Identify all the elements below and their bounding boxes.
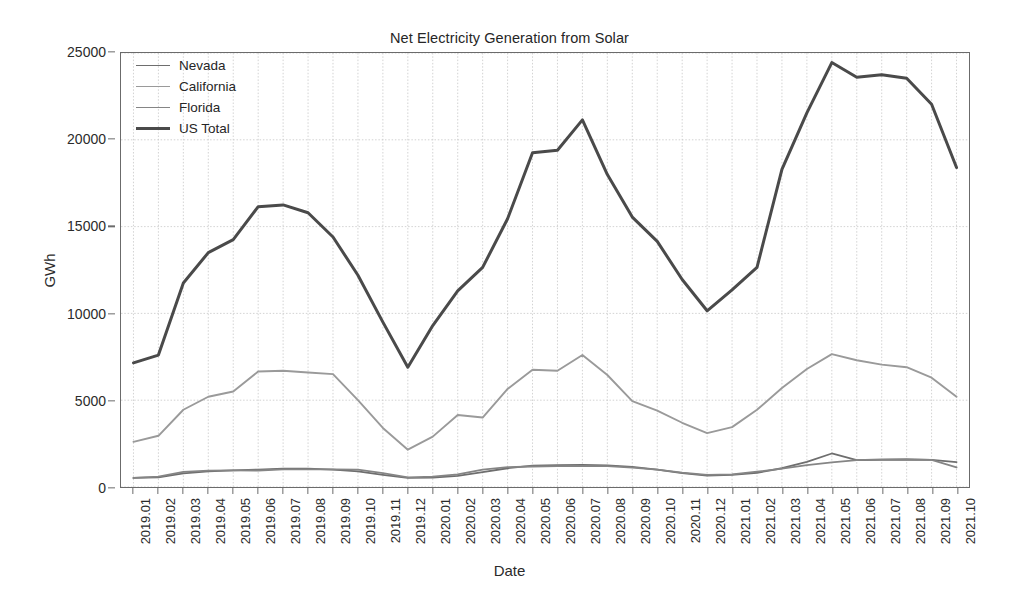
y-tick-label: 0 (98, 480, 106, 496)
x-tick-mark (682, 488, 683, 494)
legend-label: Florida (179, 100, 220, 115)
legend-entry-florida[interactable]: Florida (136, 98, 236, 117)
x-tick-mark (707, 488, 708, 494)
y-axis: 0500010000150002000025000 (0, 52, 120, 488)
x-tick-mark (507, 488, 508, 494)
x-tick-mark (732, 488, 733, 494)
legend-line-swatch-icon (136, 127, 170, 130)
x-tick-label: 2021.09 (938, 498, 953, 544)
x-tick-label: 2021.02 (763, 498, 778, 544)
x-tick-label: 2020.04 (513, 498, 528, 544)
plot-area (120, 52, 970, 488)
legend-line-swatch-icon (136, 65, 170, 66)
x-tick-label: 2021.05 (838, 498, 853, 544)
x-tick-mark (532, 488, 533, 494)
x-axis-label: Date (0, 562, 1019, 579)
x-tick-mark (432, 488, 433, 494)
x-tick-mark (482, 488, 483, 494)
x-tick-label: 2019.02 (163, 498, 178, 544)
x-tick-label: 2020.01 (438, 498, 453, 544)
legend-line-swatch-icon (136, 86, 170, 87)
x-tick-mark (757, 488, 758, 494)
x-tick-label: 2019.12 (413, 498, 428, 544)
y-tick-label: 25000 (67, 44, 106, 60)
x-tick-mark (582, 488, 583, 494)
y-tick-mark (108, 226, 115, 227)
series-lines (121, 53, 969, 487)
x-tick-label: 2020.12 (713, 498, 728, 544)
series-line-california (133, 354, 956, 449)
x-tick-label: 2020.02 (463, 498, 478, 544)
series-line-florida (133, 459, 956, 478)
x-tick-mark (282, 488, 283, 494)
x-tick-label: 2019.01 (138, 498, 153, 544)
x-tick-mark (457, 488, 458, 494)
x-tick-mark (557, 488, 558, 494)
y-tick-mark (108, 400, 115, 401)
x-tick-label: 2021.04 (813, 498, 828, 544)
x-tick-label: 2020.11 (688, 498, 703, 543)
x-tick-mark (807, 488, 808, 494)
legend-entry-nevada[interactable]: Nevada (136, 56, 236, 75)
x-tick-label: 2019.10 (363, 498, 378, 544)
x-tick-mark (957, 488, 958, 494)
x-tick-label: 2020.07 (588, 498, 603, 544)
y-tick-label: 15000 (67, 218, 106, 234)
x-tick-mark (132, 488, 133, 494)
x-tick-label: 2021.08 (913, 498, 928, 544)
chart-figure: Net Electricity Generation from Solar GW… (0, 0, 1019, 614)
x-tick-label: 2020.05 (538, 498, 553, 544)
x-tick-mark (607, 488, 608, 494)
x-tick-label: 2021.01 (738, 498, 753, 544)
x-tick-mark (782, 488, 783, 494)
x-tick-mark (882, 488, 883, 494)
x-tick-label: 2019.03 (188, 498, 203, 544)
y-tick-label: 10000 (67, 306, 106, 322)
legend-label: Nevada (179, 58, 226, 73)
x-tick-label: 2020.03 (488, 498, 503, 544)
legend-line-swatch-icon (136, 107, 170, 108)
x-tick-mark (832, 488, 833, 494)
x-tick-label: 2019.08 (313, 498, 328, 544)
x-tick-mark (382, 488, 383, 494)
legend-label: California (179, 79, 236, 94)
x-tick-mark (907, 488, 908, 494)
x-tick-mark (307, 488, 308, 494)
chart-legend: NevadaCaliforniaFloridaUS Total (132, 54, 240, 140)
x-tick-label: 2020.10 (663, 498, 678, 544)
x-tick-mark (182, 488, 183, 494)
y-tick-mark (108, 51, 115, 52)
x-tick-mark (207, 488, 208, 494)
x-tick-label: 2019.07 (288, 498, 303, 544)
x-tick-label: 2019.06 (263, 498, 278, 544)
x-tick-mark (407, 488, 408, 494)
x-tick-label: 2021.07 (888, 498, 903, 544)
x-tick-mark (357, 488, 358, 494)
x-tick-label: 2020.06 (563, 498, 578, 544)
y-tick-label: 20000 (67, 131, 106, 147)
x-tick-mark (857, 488, 858, 494)
legend-entry-us-total[interactable]: US Total (136, 119, 236, 138)
x-tick-label: 2019.04 (213, 498, 228, 544)
chart-title: Net Electricity Generation from Solar (0, 30, 1019, 46)
x-tick-label: 2021.10 (963, 498, 978, 544)
x-tick-mark (332, 488, 333, 494)
x-tick-mark (657, 488, 658, 494)
x-tick-mark (157, 488, 158, 494)
x-tick-label: 2019.09 (338, 498, 353, 544)
x-tick-label: 2021.06 (863, 498, 878, 544)
series-line-us-total (133, 63, 956, 368)
legend-entry-california[interactable]: California (136, 77, 236, 96)
x-tick-mark (632, 488, 633, 494)
y-tick-mark (108, 313, 115, 314)
x-tick-label: 2020.09 (638, 498, 653, 544)
x-tick-label: 2020.08 (613, 498, 628, 544)
y-tick-label: 5000 (75, 393, 106, 409)
x-tick-label: 2019.05 (238, 498, 253, 544)
x-tick-mark (257, 488, 258, 494)
x-tick-mark (932, 488, 933, 494)
y-tick-mark (108, 139, 115, 140)
x-tick-label: 2021.03 (788, 498, 803, 544)
x-tick-label: 2019.11 (388, 498, 403, 543)
y-tick-mark (108, 487, 115, 488)
